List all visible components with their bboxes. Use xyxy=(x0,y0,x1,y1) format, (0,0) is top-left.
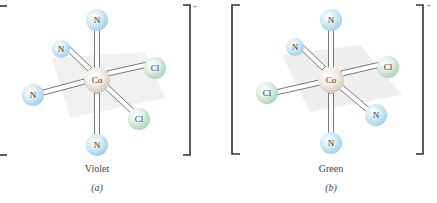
svg-text:N: N xyxy=(292,42,299,52)
caption: Violet xyxy=(85,163,110,174)
ligand-atom: N xyxy=(22,84,44,106)
panel-a: + N N Cl xyxy=(0,3,197,194)
svg-text:Cl: Cl xyxy=(384,62,393,72)
svg-text:Cl: Cl xyxy=(263,88,272,98)
ligand-atom: Cl xyxy=(128,108,150,130)
svg-text:N: N xyxy=(94,15,101,25)
charge-label: + xyxy=(193,3,197,11)
left-bracket xyxy=(232,5,240,154)
ligand-atom: N xyxy=(86,134,108,156)
ligand-atom: Cl xyxy=(144,57,166,79)
central-atom: Co xyxy=(84,67,110,93)
ligand-atom: N xyxy=(52,40,70,58)
panel-b: + N N Cl Cl xyxy=(232,2,431,194)
right-bracket xyxy=(416,5,423,154)
svg-text:Cl: Cl xyxy=(135,114,144,124)
ligand-atom: N xyxy=(286,38,304,56)
svg-text:N: N xyxy=(30,90,37,100)
ligand-atom: N xyxy=(86,9,108,31)
ligand-atom: Cl xyxy=(377,56,399,78)
caption: Green xyxy=(319,163,343,174)
charge-label: + xyxy=(427,2,431,10)
svg-text:N: N xyxy=(328,138,335,148)
ligand-atom: N xyxy=(365,104,387,126)
svg-text:Co: Co xyxy=(92,75,103,85)
left-bracket xyxy=(0,6,7,155)
ligand-atom: N xyxy=(320,132,342,154)
ligand-atom: Cl xyxy=(256,82,278,104)
svg-text:N: N xyxy=(328,15,335,25)
svg-text:Cl: Cl xyxy=(151,63,160,73)
panel-label: (b) xyxy=(325,182,337,194)
svg-text:Co: Co xyxy=(326,75,337,85)
svg-text:N: N xyxy=(94,140,101,150)
central-atom: Co xyxy=(318,67,344,93)
svg-text:N: N xyxy=(373,110,380,120)
octahedral-complex-figure: + N N Cl xyxy=(0,0,437,203)
ligand-atom: N xyxy=(320,9,342,31)
panel-label: (a) xyxy=(91,182,103,194)
svg-text:N: N xyxy=(58,44,65,54)
right-bracket xyxy=(183,5,190,155)
